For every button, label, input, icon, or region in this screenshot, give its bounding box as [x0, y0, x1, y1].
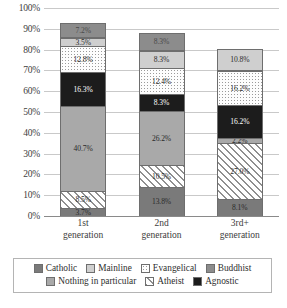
bar-segment-value: 16.2% [230, 85, 249, 93]
x-axis-label: 3rd+generation [201, 218, 279, 241]
bar-segment-value: 3.7% [75, 209, 90, 216]
bar-segment-value: 12.4% [152, 78, 171, 86]
bar-segment-value: 8.3% [154, 38, 169, 46]
y-tick-label: 0% [28, 211, 40, 221]
legend-row: CatholicMainlineEvangelicalBuddhist [16, 262, 269, 275]
bar-segment-value: 26.2% [152, 135, 171, 143]
bar-segment[interactable]: 3.5% [60, 38, 106, 45]
plot-area: 0%10%20%30%40%50%60%70%80%90%100% 7.2%3.… [44, 8, 279, 216]
bar-segment[interactable]: 40.7% [60, 106, 106, 191]
bar-segment[interactable]: 10.8% [217, 49, 263, 71]
x-axis-label: 1stgeneration [44, 218, 122, 241]
bar-segment[interactable]: 8.3% [139, 51, 185, 68]
legend-swatch-icon [193, 277, 202, 286]
bar-segment-value: 12.8% [74, 56, 93, 64]
legend-label: Buddhist [218, 262, 252, 275]
stacked-bar[interactable]: 7.2%3.5%12.8%16.3%40.7%8.5%3.7% [60, 23, 106, 216]
x-axis-label-line: 3rd+ [201, 218, 279, 230]
x-axis-label-line: 2nd [123, 218, 201, 230]
bar-segment-value: 8.1% [232, 204, 247, 212]
stacked-bar-chart: 0%10%20%30%40%50%60%70%80%90%100% 7.2%3.… [0, 0, 287, 308]
y-tick-label: 70% [23, 65, 40, 75]
bar-segment[interactable]: 27.0% [217, 143, 263, 199]
chart-legend: CatholicMainlineEvangelicalBuddhistNothi… [13, 258, 272, 293]
legend-item-buddhist[interactable]: Buddhist [206, 262, 252, 275]
legend-swatch-icon [46, 277, 55, 286]
legend-swatch-icon [34, 264, 43, 273]
bar-group: 7.2%3.5%12.8%16.3%40.7%8.5%3.7%8.3%8.3%1… [44, 8, 279, 216]
legend-label: Mainline [98, 262, 132, 275]
bar-segment-value: 8.3% [154, 56, 169, 64]
legend-label: Agnostic [205, 275, 239, 288]
bar-segment[interactable]: 10.5% [139, 165, 185, 187]
y-tick-label: 30% [23, 149, 40, 159]
bar-segment[interactable]: 12.8% [60, 46, 106, 73]
y-tick-label: 10% [23, 190, 40, 200]
bar-segment[interactable]: 3.7% [60, 208, 106, 216]
legend-label: Catholic [46, 262, 78, 275]
bar-segment-value: 3.5% [75, 39, 90, 46]
bar-segment[interactable]: 7.2% [60, 23, 106, 38]
legend-item-mainline[interactable]: Mainline [86, 262, 132, 275]
bar-segment-value: 13.8% [152, 198, 171, 206]
bar-segment[interactable]: 8.5% [60, 191, 106, 209]
legend-item-atheist[interactable]: Atheist [145, 275, 184, 288]
bar-segment-value: 27.0% [230, 168, 249, 176]
bar-segment-value: 8.3% [154, 99, 169, 107]
legend-label: Nothing in particular [58, 275, 136, 288]
legend-item-agnostic[interactable]: Agnostic [193, 275, 239, 288]
bar-segment-value: 7.2% [75, 27, 90, 35]
bar-segment[interactable]: 13.8% [139, 187, 185, 216]
bar-segment-value: 8.5% [75, 196, 90, 204]
bar-segment-value: 10.8% [230, 56, 249, 64]
legend-swatch-icon [141, 264, 150, 273]
bar-segment[interactable]: 8.1% [217, 199, 263, 216]
stacked-bar[interactable]: 10.8%16.2%16.2%2.2%27.0%8.1% [217, 49, 263, 216]
bar-segment[interactable]: 26.2% [139, 111, 185, 165]
bar-segment[interactable]: 8.3% [139, 33, 185, 50]
legend-item-catholic[interactable]: Catholic [34, 262, 78, 275]
legend-swatch-icon [145, 277, 154, 286]
legend-item-evangelical[interactable]: Evangelical [141, 262, 197, 275]
bar-segment[interactable]: 12.4% [139, 68, 185, 94]
x-axis-label-line: generation [44, 230, 122, 242]
bar-segment[interactable]: 16.3% [60, 72, 106, 106]
x-axis-label-line: generation [123, 230, 201, 242]
bar-segment-value: 16.3% [74, 86, 93, 94]
y-tick-label: 40% [23, 128, 40, 138]
x-axis-labels: 1stgeneration2ndgeneration3rd+generation [44, 218, 279, 248]
legend-label: Evangelical [153, 262, 197, 275]
legend-label: Atheist [157, 275, 184, 288]
y-tick-label: 90% [23, 24, 40, 34]
bar-segment-value: 40.7% [74, 145, 93, 153]
bar-segment[interactable]: 8.3% [139, 94, 185, 111]
x-axis-label: 2ndgeneration [123, 218, 201, 241]
y-tick-label: 50% [23, 107, 40, 117]
y-tick-label: 20% [23, 169, 40, 179]
x-axis-label-line: generation [201, 230, 279, 242]
y-tick-label: 100% [19, 3, 40, 13]
bar-segment-value: 10.5% [152, 173, 171, 181]
legend-row: Nothing in particularAtheistAgnostic [16, 275, 269, 288]
legend-swatch-icon [86, 264, 95, 273]
legend-item-nothing-in-particular[interactable]: Nothing in particular [46, 275, 136, 288]
legend-swatch-icon [206, 264, 215, 273]
bar-segment-value: 16.2% [230, 118, 249, 126]
x-axis-label-line: 1st [44, 218, 122, 230]
stacked-bar[interactable]: 8.3%8.3%12.4%8.3%26.2%10.5%13.8% [139, 33, 185, 216]
bar-segment[interactable]: 16.2% [217, 71, 263, 105]
y-tick-label: 60% [23, 86, 40, 96]
y-tick-label: 80% [23, 45, 40, 55]
gridline-0 [44, 216, 279, 217]
bar-segment[interactable]: 16.2% [217, 105, 263, 139]
